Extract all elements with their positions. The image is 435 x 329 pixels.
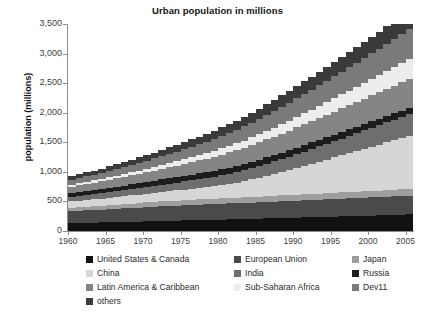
legend-swatch-icon xyxy=(234,256,241,263)
y-tick-mark xyxy=(63,24,68,25)
chart-title: Urban population in millions xyxy=(0,5,435,16)
y-tick-mark xyxy=(63,54,68,55)
y-tick-label: 3,500 xyxy=(16,18,62,28)
legend-item[interactable]: India xyxy=(234,268,352,278)
x-tick-label: 1960 xyxy=(48,236,88,246)
legend-label: Dev11 xyxy=(363,282,387,292)
legend-swatch-icon xyxy=(352,270,359,277)
stacked-area-svg xyxy=(68,24,413,231)
x-tick-mark xyxy=(368,231,369,235)
legend-item[interactable]: Russia xyxy=(352,268,426,278)
x-tick-mark xyxy=(256,231,257,235)
x-tick-mark xyxy=(293,231,294,235)
legend-swatch-icon xyxy=(352,256,359,263)
x-tick-label: 2005 xyxy=(386,236,426,246)
x-tick-mark xyxy=(406,231,407,235)
legend-item[interactable]: United States & Canada xyxy=(86,254,234,264)
x-tick-label: 1975 xyxy=(161,236,201,246)
legend-row: others xyxy=(86,294,426,308)
legend-label: others xyxy=(97,296,121,306)
x-tick-mark xyxy=(143,231,144,235)
x-tick-label: 1965 xyxy=(86,236,126,246)
legend-label: Russia xyxy=(363,268,389,278)
x-tick-label: 1995 xyxy=(311,236,351,246)
legend-item[interactable]: Dev11 xyxy=(352,282,426,292)
legend-item[interactable]: others xyxy=(86,296,234,306)
y-tick-mark xyxy=(63,83,68,84)
y-tick-label: 500 xyxy=(16,195,62,205)
legend-label: European Union xyxy=(245,254,307,264)
x-axis-line xyxy=(67,231,414,232)
legend-swatch-icon xyxy=(234,284,241,291)
legend-row: United States & CanadaEuropean UnionJapa… xyxy=(86,252,426,266)
y-tick-mark xyxy=(63,201,68,202)
y-tick-label: 2,500 xyxy=(16,77,62,87)
y-tick-label: 2,000 xyxy=(16,107,62,117)
legend-item[interactable]: Latin America & Caribbean xyxy=(86,282,234,292)
y-tick-label: 3,000 xyxy=(16,48,62,58)
legend-label: Latin America & Caribbean xyxy=(97,282,199,292)
y-tick-mark xyxy=(63,172,68,173)
x-tick-mark xyxy=(181,231,182,235)
y-axis-tick-labels: 05001,0001,5002,0002,5003,0003,500 xyxy=(12,0,62,240)
y-tick-label: 1,000 xyxy=(16,166,62,176)
chart-legend: United States & CanadaEuropean UnionJapa… xyxy=(86,252,426,308)
legend-item[interactable]: Sub-Saharan Africa xyxy=(234,282,352,292)
x-tick-mark xyxy=(106,231,107,235)
x-tick-label: 2000 xyxy=(348,236,388,246)
chart-container: Urban population in millions population … xyxy=(0,0,435,329)
legend-label: China xyxy=(97,268,119,278)
legend-row: ChinaIndiaRussia xyxy=(86,266,426,280)
legend-item[interactable]: China xyxy=(86,268,234,278)
x-tick-mark xyxy=(68,231,69,235)
y-tick-mark xyxy=(63,142,68,143)
x-tick-label: 1990 xyxy=(273,236,313,246)
legend-label: Japan xyxy=(363,254,386,264)
legend-item[interactable]: Japan xyxy=(352,254,426,264)
legend-swatch-icon xyxy=(86,284,93,291)
x-tick-label: 1970 xyxy=(123,236,163,246)
legend-row: Latin America & CaribbeanSub-Saharan Afr… xyxy=(86,280,426,294)
legend-label: Sub-Saharan Africa xyxy=(245,282,320,292)
y-tick-label: 0 xyxy=(16,225,62,235)
y-tick-mark xyxy=(63,113,68,114)
legend-swatch-icon xyxy=(86,298,93,305)
plot-area xyxy=(68,24,413,231)
x-tick-label: 1980 xyxy=(198,236,238,246)
legend-label: India xyxy=(245,268,264,278)
legend-swatch-icon xyxy=(234,270,241,277)
legend-label: United States & Canada xyxy=(97,254,189,264)
x-tick-mark xyxy=(218,231,219,235)
legend-swatch-icon xyxy=(86,270,93,277)
legend-item[interactable]: European Union xyxy=(234,254,352,264)
x-tick-label: 1985 xyxy=(236,236,276,246)
x-tick-mark xyxy=(331,231,332,235)
legend-swatch-icon xyxy=(352,284,359,291)
legend-swatch-icon xyxy=(86,256,93,263)
y-tick-label: 1,500 xyxy=(16,136,62,146)
